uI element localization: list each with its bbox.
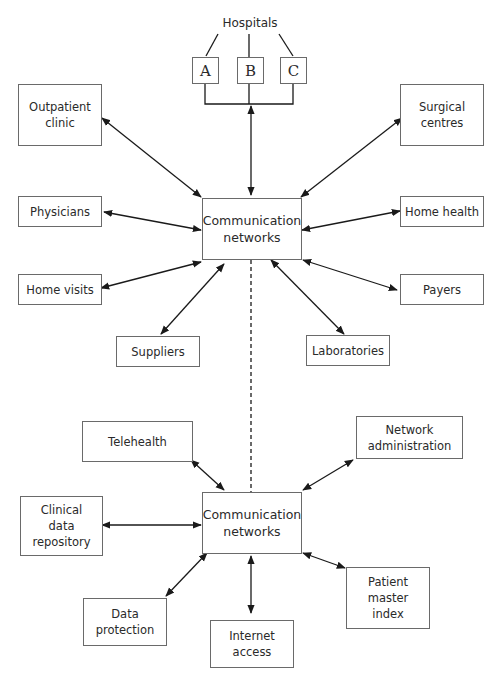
hospitals-label: Hospitals	[200, 16, 300, 30]
hospital-b: B	[237, 57, 264, 84]
node-payers: Payers	[400, 274, 484, 305]
diagram-canvas: Hospitals A B C Communication networks O…	[0, 0, 501, 688]
node-telehealth: Telehealth	[82, 421, 193, 462]
bottom-communication-hub: Communication networks	[202, 492, 302, 554]
node-home-health: Home health	[400, 196, 484, 227]
node-suppliers: Suppliers	[116, 336, 200, 367]
node-data-protection: Data protection	[83, 598, 167, 646]
node-physicians: Physicians	[18, 196, 102, 227]
node-patient-master-index: Patient master index	[346, 567, 430, 629]
node-internet-access: Internet access	[210, 620, 294, 668]
node-surgical-centres: Surgical centres	[400, 84, 484, 146]
hospital-a: A	[192, 57, 219, 84]
node-laboratories: Laboratories	[306, 335, 390, 366]
top-communication-hub: Communication networks	[202, 198, 302, 260]
node-clinical-data-repository: Clinical data repository	[20, 496, 103, 556]
hospital-c: C	[280, 57, 307, 84]
node-network-administration: Network administration	[356, 416, 463, 459]
node-home-visits: Home visits	[18, 274, 102, 305]
node-outpatient-clinic: Outpatient clinic	[18, 84, 102, 146]
